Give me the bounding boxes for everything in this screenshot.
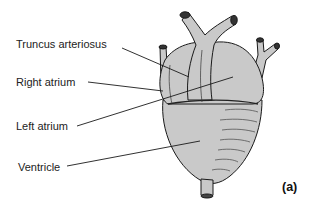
heart-diagram: Truncus arteriosus Right atrium Left atr… bbox=[0, 0, 315, 211]
heart-illustration bbox=[0, 0, 315, 211]
ventricle-shape bbox=[163, 100, 262, 183]
label-truncus-arteriosus: Truncus arteriosus bbox=[16, 38, 107, 50]
label-left-atrium: Left atrium bbox=[16, 120, 68, 132]
label-ventricle: Ventricle bbox=[18, 161, 60, 173]
panel-label: (a) bbox=[282, 180, 297, 194]
label-right-atrium: Right atrium bbox=[16, 76, 75, 88]
